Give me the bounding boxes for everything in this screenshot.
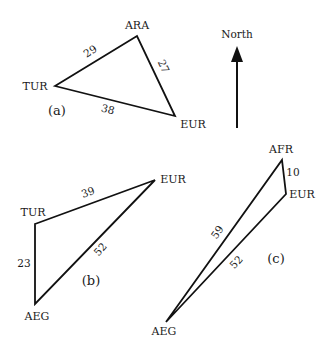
edge-length-afr-eur: 10 <box>286 166 299 178</box>
vertex-label-tur: TUR <box>21 206 47 219</box>
vertex-label-eur: EUR <box>289 188 315 201</box>
arrowhead-icon <box>231 46 243 62</box>
triangle-b: TUR EUR AEG 39 23 52 (b) <box>17 173 186 323</box>
vertex-label-eur: EUR <box>160 173 186 186</box>
vertex-label-eur: EUR <box>180 118 206 131</box>
vertex-label-ara: ARA <box>124 19 150 32</box>
panel-label-c: (c) <box>267 251 284 266</box>
edge-length-tur-eur: 38 <box>100 101 116 116</box>
vertex-label-aeg: AEG <box>24 310 50 323</box>
panel-label-b: (b) <box>82 273 100 288</box>
edge-length-eur-aeg: 52 <box>227 253 245 271</box>
vertex-label-aeg: AEG <box>151 325 177 338</box>
edge-length-afr-aeg: 59 <box>208 223 226 241</box>
panel-label-a: (a) <box>48 103 66 118</box>
triangle-a: TUR ARA EUR 29 27 38 (a) <box>23 19 207 131</box>
edge-length-ara-eur: 27 <box>156 57 173 74</box>
triangle-diagram-canvas: North TUR ARA EUR 29 27 38 (a) TUR EUR A… <box>0 0 332 349</box>
vertex-label-afr: AFR <box>268 143 294 156</box>
edge-length-tur-eur: 39 <box>80 184 97 200</box>
north-arrow: North <box>221 28 253 128</box>
vertex-label-tur: TUR <box>23 80 49 93</box>
edge-length-tur-aeg: 23 <box>17 257 30 269</box>
edge-length-tur-ara: 29 <box>81 42 99 59</box>
north-label: North <box>221 28 253 40</box>
